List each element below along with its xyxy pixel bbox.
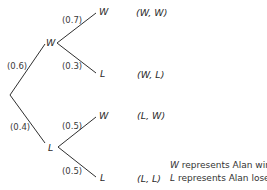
- leaf-l-l: L: [100, 173, 105, 183]
- outcome-l-w: (L, W): [137, 111, 165, 121]
- legend-win: W represents Alan wins: [170, 160, 267, 170]
- legend-lose-text: represents Alan loses: [175, 173, 267, 183]
- probability-l-w: (0.5): [62, 121, 82, 131]
- probability-l-l: (0.5): [62, 166, 82, 176]
- outcome-l-l: (L, L): [137, 174, 161, 184]
- leaf-w-w: W: [99, 7, 108, 17]
- probability-w-w: (0.7): [62, 15, 82, 25]
- node-l: L: [48, 143, 53, 153]
- probability-w-l: (0.3): [62, 61, 82, 71]
- legend-win-symbol: W: [170, 160, 179, 170]
- legend-win-text: represents Alan wins: [179, 160, 267, 170]
- probability-w: (0.6): [7, 61, 27, 71]
- legend-lose: L represents Alan loses: [170, 173, 267, 183]
- outcome-w-l: (W, L): [137, 70, 164, 80]
- branch-root-to-l: [10, 95, 45, 143]
- leaf-w-l: L: [100, 69, 105, 79]
- node-w: W: [46, 38, 55, 48]
- leaf-l-w: W: [99, 111, 108, 121]
- probability-tree-diagram: (0.6) (0.4) W L (0.7) (0.3) (0.5) (0.5) …: [0, 0, 267, 190]
- probability-l: (0.4): [10, 122, 30, 132]
- outcome-w-w: (W, W): [136, 8, 167, 18]
